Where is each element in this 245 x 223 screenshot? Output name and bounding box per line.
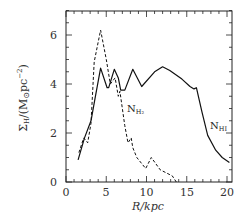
xtick-label: 20 — [220, 186, 234, 199]
x-axis-label: R/kpc — [131, 200, 164, 213]
series-label-hi: NHI — [210, 120, 227, 133]
chart-canvas: 0 2 4 6 0 5 10 15 20 R/kpc ΣH/(M⊙pc−2) N… — [0, 0, 245, 223]
ytick-label: 2 — [50, 127, 57, 140]
xtick-label: 0 — [63, 186, 70, 199]
xtick-label: 10 — [140, 186, 154, 199]
x-ticks — [66, 11, 227, 182]
ytick-label: 4 — [50, 78, 57, 91]
xtick-label: 5 — [103, 186, 110, 199]
y-axis-label: ΣH/(M⊙pc−2) — [16, 64, 31, 132]
xtick-label: 15 — [180, 186, 194, 199]
y-ticks — [66, 11, 232, 183]
ytick-label: 0 — [50, 176, 57, 189]
ytick-label: 6 — [50, 29, 57, 42]
plot-frame — [66, 11, 232, 182]
series-label-h2: NH₂ — [127, 103, 144, 116]
series-line-hi — [78, 67, 229, 163]
